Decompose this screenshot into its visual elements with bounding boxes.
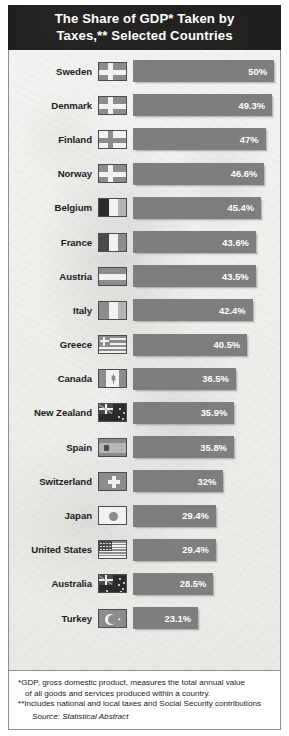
country-label: Greece [13,339,98,350]
bar-row: Spain 35.8% [9,430,280,464]
source-citation: Source: Statistical Abstract [18,710,271,721]
value-bar: 29.4% [133,539,216,561]
denmark-flag [98,96,127,115]
bar-row: Sweden 50% [9,54,280,88]
bar-value-label: 49.3% [238,100,272,111]
country-label: Belgium [13,202,98,213]
bar-track: 43.6% [133,225,280,259]
bar-track: 23.1% [133,601,280,635]
switzerland-flag [98,472,127,491]
bar-value-label: 28.5% [180,578,214,589]
bar-value-label: 43.5% [222,271,256,282]
bar-row-list: Sweden 50%Denmark 49.3%Finland 47%Norway… [9,50,280,635]
bar-track: 35.9% [133,396,280,430]
bar-value-label: 35.9% [201,407,235,418]
bar-value-label: 29.4% [182,544,216,555]
country-label: Switzerland [13,476,98,487]
belgium-flag [98,198,127,217]
country-label: Finland [13,134,98,145]
country-label: Japan [13,510,98,521]
bar-row: Australia 28.5% [9,567,280,601]
turkey-flag [98,609,127,628]
country-label: Australia [13,578,98,589]
bar-track: 35.8% [133,430,280,464]
chart-plot-area: Sweden 50%Denmark 49.3%Finland 47%Norway… [8,50,281,671]
bar-track: 45.4% [133,191,280,225]
value-bar: 43.5% [133,265,256,287]
france-flag [98,233,127,252]
value-bar: 46.6% [133,163,264,185]
bar-track: 36.5% [133,362,280,396]
bar-row: Turkey 23.1% [9,601,280,635]
value-bar: 42.4% [133,299,253,321]
austria-flag [98,267,127,286]
new-zealand-flag [98,403,127,422]
country-label: France [13,237,98,248]
country-label: Turkey [13,613,98,624]
bar-value-label: 29.4% [182,510,216,521]
country-label: Sweden [13,66,98,77]
bar-row: New Zealand 35.9% [9,396,280,430]
bar-value-label: 50% [248,66,274,77]
bar-track: 46.6% [133,157,280,191]
chart-title-line-2: Taxes,** Selected Countries [56,28,232,43]
finland-flag [98,130,127,149]
bar-track: 50% [133,54,280,88]
canada-flag [98,369,127,388]
bar-row: Belgium 45.4% [9,191,280,225]
bar-track: 43.5% [133,259,280,293]
value-bar: 32% [133,470,223,492]
bar-track: 29.4% [133,498,280,532]
bar-value-label: 23.1% [165,613,199,624]
bar-value-label: 32% [197,476,223,487]
value-bar: 35.8% [133,436,234,458]
country-label: United States [13,544,98,555]
country-label: Canada [13,373,98,384]
bar-value-label: 42.4% [219,305,253,316]
footnote-gdp-line-2: of all goods and services produced withi… [18,689,271,700]
australia-flag [98,574,127,593]
bar-track: 42.4% [133,293,280,327]
footnote-gdp-line-1: *GDP, gross domestic product, measures t… [18,678,271,689]
chart-title-band: The Share of GDP* Taken by Taxes,** Sele… [8,5,281,50]
bar-track: 49.3% [133,88,280,122]
bar-row: Canada 36.5% [9,362,280,396]
country-label: Norway [13,168,98,179]
sweden-flag [98,62,127,81]
bar-value-label: 40.5% [214,339,248,350]
value-bar: 43.6% [133,231,256,253]
bar-row: Italy 42.4% [9,293,280,327]
bar-track: 47% [133,122,280,156]
bar-track: 29.4% [133,533,280,567]
bar-value-label: 35.8% [200,442,234,453]
footnotes-area: *GDP, gross domestic product, measures t… [8,671,281,730]
united-states-flag [98,540,127,559]
bar-row: United States29.4% [9,533,280,567]
bar-track: 32% [133,464,280,498]
country-label: New Zealand [13,407,98,418]
chart-title-line-1: The Share of GDP* Taken by [55,11,235,26]
bar-row: Finland 47% [9,122,280,156]
value-bar: 23.1% [133,607,198,629]
greece-flag [98,335,127,354]
bar-track: 40.5% [133,328,280,362]
bar-row: Switzerland 32% [9,464,280,498]
bar-row: Japan 29.4% [9,498,280,532]
country-label: Italy [13,305,98,316]
infographic-chart: The Share of GDP* Taken by Taxes,** Sele… [0,0,289,736]
value-bar: 47% [133,128,266,150]
value-bar: 49.3% [133,94,272,116]
bar-value-label: 45.4% [227,202,261,213]
japan-flag [98,506,127,525]
value-bar: 28.5% [133,573,213,595]
bar-row: France 43.6% [9,225,280,259]
value-bar: 40.5% [133,334,247,356]
bar-row: Norway 46.6% [9,157,280,191]
bar-row: Austria 43.5% [9,259,280,293]
value-bar: 35.9% [133,402,234,424]
bar-row: Greece 40.5% [9,328,280,362]
country-label: Spain [13,442,98,453]
bar-value-label: 46.6% [231,168,265,179]
bar-value-label: 36.5% [202,373,236,384]
bar-value-label: 43.6% [222,237,256,248]
